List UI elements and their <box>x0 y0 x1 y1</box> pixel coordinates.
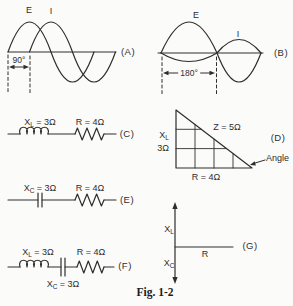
capacitor-value-label: XC = 3Ω <box>47 279 80 289</box>
arrow-left-icon <box>163 71 169 75</box>
reactance-side-label: XL <box>159 130 169 140</box>
inductive-reactance-axis-label: XL <box>164 224 174 234</box>
resistor-zigzag-icon <box>75 128 104 140</box>
arrow-right-icon <box>24 65 30 69</box>
impedance-triangle-d <box>176 110 265 168</box>
wave-i-label: I <box>237 29 240 39</box>
wave-e-label: E <box>26 5 32 15</box>
arrow-down-icon <box>172 277 177 284</box>
resistor-value-label: R = 4Ω <box>77 247 106 257</box>
axes-g <box>172 202 233 284</box>
circuit-e <box>8 193 116 207</box>
figure-canvas: E I 90° (A) E I 180° (B) XL = 3Ω R = 4Ω … <box>0 0 293 306</box>
phase-angle-label: 180° <box>178 68 200 78</box>
panel-label-c: (C) <box>120 129 135 139</box>
figure-caption: Fig. 1-2 <box>136 287 173 297</box>
arrow-up-icon <box>172 202 177 209</box>
panel-label-a: (A) <box>121 47 135 57</box>
arrow-left-icon <box>250 161 256 165</box>
inductor-value-label: XL = 3Ω <box>24 117 56 127</box>
arrow-right-icon <box>210 71 216 75</box>
circuit-f <box>8 258 114 276</box>
capacitive-reactance-axis-label: XC <box>164 258 175 268</box>
resistor-value-label: R = 4Ω <box>76 117 105 127</box>
resistor-value-label: R = 4Ω <box>76 183 105 193</box>
inductor-coil-icon <box>20 260 49 267</box>
reactance-side-value: 3Ω <box>157 143 169 153</box>
phase-angle-label: 90° <box>13 55 26 65</box>
resistor-zigzag-icon <box>77 261 104 273</box>
resistance-axis-label: R <box>202 249 209 259</box>
panel-label-g: (G) <box>242 241 257 251</box>
inductor-value-label: XL = 3Ω <box>22 247 54 257</box>
impedance-label: Z = 5Ω <box>213 122 241 132</box>
circuit-c <box>8 127 116 140</box>
panel-b-waveform <box>158 22 263 95</box>
arrow-left-icon <box>9 65 15 69</box>
wave-e-label: E <box>193 10 199 20</box>
capacitor-value-label: XC = 3Ω <box>24 183 57 193</box>
current-wave-b <box>161 40 261 62</box>
panel-label-e: (E) <box>120 195 134 205</box>
panel-label-b: (B) <box>274 48 288 58</box>
figure-line-art <box>0 0 293 306</box>
inductor-coil-icon <box>20 127 49 134</box>
resistance-side-label: R = 4Ω <box>192 172 221 182</box>
angle-label: Angle <box>266 153 289 163</box>
panel-label-d: (D) <box>271 133 286 143</box>
panel-label-f: (F) <box>118 261 132 271</box>
resistor-zigzag-icon <box>75 194 104 206</box>
wave-i-label: I <box>50 6 53 16</box>
